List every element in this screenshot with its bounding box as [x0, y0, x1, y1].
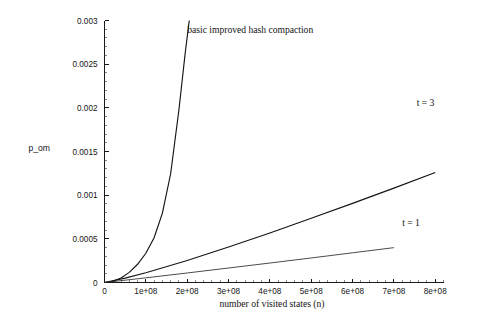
- y-tick-label: 0.001: [77, 191, 98, 200]
- x-tick-label: 0: [102, 287, 107, 296]
- series-line-1: [105, 21, 190, 283]
- series-lines: [105, 21, 436, 283]
- y-tick-label: 0: [93, 279, 98, 288]
- y-axis-tick-labels: 00.00050.0010.00150.0020.00250.003: [72, 17, 97, 288]
- chart-figure: 00.00050.0010.00150.0020.00250.003 01e+0…: [0, 0, 483, 321]
- y-tick-label: 0.002: [77, 104, 98, 113]
- y-tick-label: 0.0005: [72, 235, 97, 244]
- y-tick-label: 0.003: [77, 17, 98, 26]
- y-tick-label: 0.0015: [72, 148, 97, 157]
- x-tick-label: 8e+08: [424, 287, 447, 296]
- x-tick-label: 1e+08: [134, 287, 157, 296]
- y-axis-title: p_om: [29, 143, 51, 153]
- x-tick-label: 7e+08: [382, 287, 405, 296]
- x-tick-label: 5e+08: [300, 287, 323, 296]
- series-line-2: [105, 172, 436, 282]
- series-line-3: [105, 248, 394, 283]
- y-axis-major-ticks: [105, 21, 109, 283]
- x-axis-tick-labels: 01e+082e+083e+084e+085e+086e+087e+088e+0…: [102, 287, 447, 296]
- x-tick-label: 6e+08: [341, 287, 364, 296]
- x-tick-label: 4e+08: [258, 287, 281, 296]
- x-axis-title: number of visited states (n): [220, 298, 325, 310]
- x-tick-label: 2e+08: [176, 287, 199, 296]
- line-chart-svg: 00.00050.0010.00150.0020.00250.003 01e+0…: [0, 0, 483, 321]
- annotation-3: t = 1: [402, 217, 420, 228]
- annotation-2: t = 3: [417, 97, 435, 108]
- y-tick-label: 0.0025: [72, 60, 97, 69]
- annotation-1: basic improved hash compaction: [187, 24, 313, 35]
- x-tick-label: 3e+08: [217, 287, 240, 296]
- series-annotations: basic improved hash compactiont = 3t = 1: [187, 24, 434, 228]
